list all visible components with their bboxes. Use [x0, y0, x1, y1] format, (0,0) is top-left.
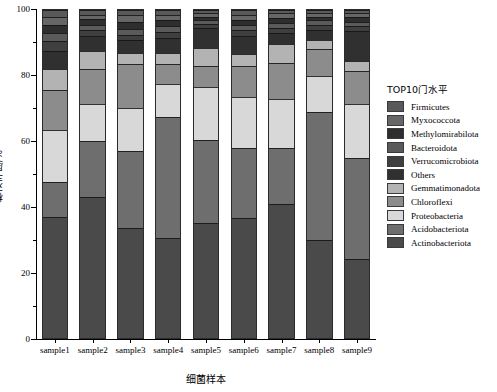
- bar-segment: [43, 182, 67, 216]
- x-axis-tick: [282, 339, 283, 343]
- legend-item[interactable]: Gemmatimonadota: [387, 182, 495, 196]
- bar-segment: [345, 104, 369, 158]
- legend-item[interactable]: Myxococcota: [387, 114, 495, 128]
- bar-segment: [194, 66, 218, 87]
- bar-segment: [269, 99, 293, 148]
- bar-segment: [269, 33, 293, 44]
- bar-segment: [269, 148, 293, 204]
- stacked-bar[interactable]: [42, 9, 68, 339]
- bar-slot: [117, 9, 143, 339]
- bar-segment: [232, 218, 256, 338]
- bar-slot: [193, 9, 219, 339]
- bar-segment: [269, 44, 293, 62]
- bar-segment: [307, 49, 331, 75]
- legend-label: Others: [411, 170, 435, 180]
- bar-segment: [232, 97, 256, 148]
- x-axis-tick-label: sample1: [40, 345, 70, 355]
- x-axis-tick: [319, 339, 320, 343]
- bar-slot: [42, 9, 68, 339]
- legend-item[interactable]: Firmicutes: [387, 100, 495, 114]
- legend-label: Firmicutes: [411, 102, 450, 112]
- bar-segment: [43, 25, 67, 33]
- legend-swatch: [387, 169, 404, 180]
- x-axis-tick: [168, 339, 169, 343]
- x-axis-tick-label: sample9: [342, 345, 372, 355]
- bar-segment: [345, 259, 369, 338]
- stacked-bar[interactable]: [268, 9, 294, 339]
- bar-segment: [118, 40, 142, 53]
- x-axis-tick: [93, 339, 94, 343]
- bar-slot: [344, 9, 370, 339]
- bar-segment: [43, 217, 67, 338]
- bar-segment: [194, 140, 218, 224]
- bar-segment: [43, 51, 67, 69]
- bar-segment: [307, 112, 331, 240]
- bar-segment: [43, 69, 67, 90]
- legend-swatch: [387, 142, 404, 153]
- bar-segment: [345, 71, 369, 104]
- legend-swatch: [387, 101, 404, 112]
- legend-item[interactable]: Methylomirabilota: [387, 127, 495, 141]
- stacked-bars: [36, 9, 376, 339]
- bar-segment: [156, 53, 180, 64]
- legend-label: Chloroflexi: [411, 197, 453, 207]
- y-axis-tick-label: 80: [0, 71, 30, 80]
- bar-segment: [118, 64, 142, 108]
- legend-label: Verrucomicrobiota: [411, 156, 478, 166]
- bar-segment: [118, 108, 142, 151]
- bar-segment: [43, 41, 67, 51]
- x-axis-tick-label: sample4: [153, 345, 183, 355]
- legend-item[interactable]: Others: [387, 168, 495, 182]
- legend-item[interactable]: Bacteroidota: [387, 141, 495, 155]
- bar-segment: [80, 104, 104, 142]
- legend-swatch: [387, 156, 404, 167]
- legend-item[interactable]: Verrucomicrobiota: [387, 154, 495, 168]
- bar-segment: [156, 64, 180, 84]
- bar-segment: [307, 240, 331, 338]
- y-axis-tick-label: 40: [0, 203, 30, 212]
- bar-segment: [232, 148, 256, 219]
- legend-label: Actinobacteriota: [411, 238, 471, 248]
- y-axis-tick: [31, 339, 36, 340]
- legend-item[interactable]: Acidobacteriota: [387, 222, 495, 236]
- bar-segment: [156, 238, 180, 338]
- stacked-bar[interactable]: [155, 9, 181, 339]
- legend-label: Myxococcota: [411, 115, 460, 125]
- x-axis-tick-label: sample3: [115, 345, 145, 355]
- stacked-bar[interactable]: [193, 9, 219, 339]
- bar-segment: [118, 15, 142, 22]
- stacked-bar[interactable]: [344, 9, 370, 339]
- legend-swatch: [387, 237, 404, 248]
- bar-segment: [232, 66, 256, 97]
- x-axis-tick: [206, 339, 207, 343]
- legend-item[interactable]: Chloroflexi: [387, 195, 495, 209]
- bar-segment: [156, 38, 180, 53]
- bar-segment: [269, 204, 293, 338]
- legend-swatch: [387, 224, 404, 235]
- x-axis-tick-label: sample5: [191, 345, 221, 355]
- bar-segment: [156, 84, 180, 117]
- x-axis-tick-label: sample8: [304, 345, 334, 355]
- legend-item[interactable]: Proteobacteria: [387, 209, 495, 223]
- stacked-bar[interactable]: [306, 9, 332, 339]
- bar-segment: [156, 117, 180, 238]
- bar-segment: [194, 48, 218, 66]
- bar-segment: [345, 31, 369, 61]
- x-axis-tick-label: sample7: [267, 345, 297, 355]
- chart-figure: 020406080100 相对丰度/% sample1sample2sample…: [0, 0, 497, 392]
- x-axis-tick: [130, 339, 131, 343]
- legend-item[interactable]: Actinobacteriota: [387, 236, 495, 250]
- bar-segment: [118, 151, 142, 228]
- bar-slot: [268, 9, 294, 339]
- legend-swatch: [387, 196, 404, 207]
- bar-segment: [307, 40, 331, 50]
- bar-slot: [231, 9, 257, 339]
- stacked-bar[interactable]: [117, 9, 143, 339]
- legend-swatch: [387, 183, 404, 194]
- stacked-bar[interactable]: [231, 9, 257, 339]
- bar-segment: [194, 28, 218, 48]
- legend-swatch: [387, 210, 404, 221]
- bar-segment: [43, 17, 67, 25]
- stacked-bar[interactable]: [79, 9, 105, 339]
- bar-segment: [80, 141, 104, 197]
